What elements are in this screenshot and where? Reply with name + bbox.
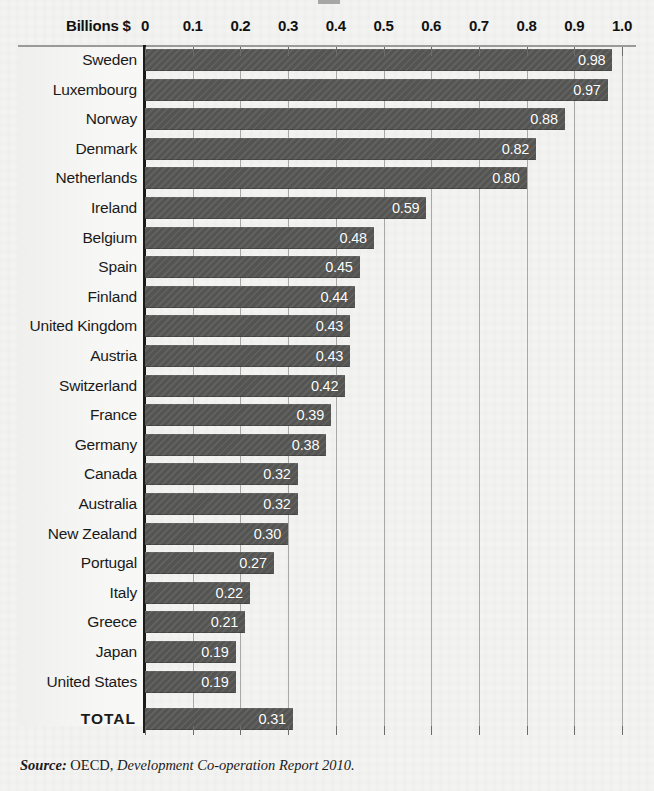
chart-row: Finland0.44 [145, 286, 622, 308]
axis-tick-bottom-0.5 [384, 726, 385, 735]
category-label: Australia [78, 493, 145, 515]
category-label: Canada [84, 463, 145, 485]
source-organization: OECD, [67, 757, 117, 773]
axis-tick-bottom-0.9 [574, 726, 575, 735]
category-label: Japan [96, 641, 145, 663]
axis-tick-bottom-0.2 [240, 726, 241, 735]
bar-value-label: 0.30 [254, 523, 281, 545]
chart-row: Ireland0.59 [145, 197, 622, 219]
bar: 0.88 [145, 108, 565, 130]
x-tick-label-0.1: 0.1 [183, 17, 203, 34]
axis-tick-bottom-0.3 [288, 726, 289, 735]
chart-row: Switzerland0.42 [145, 375, 622, 397]
bar-value-label: 0.98 [578, 49, 605, 71]
category-label: Switzerland [59, 375, 145, 397]
chart-row: Canada0.32 [145, 463, 622, 485]
category-label: France [90, 404, 145, 426]
bar-value-label: 0.44 [320, 286, 347, 308]
bar: 0.19 [145, 671, 236, 693]
category-label: Greece [87, 611, 145, 633]
chart-row: Denmark0.82 [145, 138, 622, 160]
bar-value-label: 0.42 [311, 375, 338, 397]
bar: 0.19 [145, 641, 236, 663]
bar-value-label: 0.32 [263, 463, 290, 485]
category-label: Denmark [76, 138, 145, 160]
bar: 0.32 [145, 463, 298, 485]
axis-tick-bottom-0.1 [193, 726, 194, 735]
bar: 0.31 [145, 708, 293, 730]
x-tick-label-0.6: 0.6 [421, 17, 441, 34]
chart-row: Australia0.32 [145, 493, 622, 515]
bar: 0.44 [145, 286, 355, 308]
source-prefix: Source: [20, 757, 67, 773]
category-label: Austria [90, 345, 145, 367]
bar-value-label: 0.97 [573, 79, 600, 101]
axis-tick-top-0.8 [527, 47, 528, 56]
bar: 0.27 [145, 552, 274, 574]
chart-row: Belgium0.48 [145, 227, 622, 249]
bar-value-label: 0.45 [325, 256, 352, 278]
bar-value-label: 0.21 [211, 611, 238, 633]
chart-row: Netherlands0.80 [145, 167, 622, 189]
bar-value-label: 0.32 [263, 493, 290, 515]
bar: 0.59 [145, 197, 426, 219]
bar-value-label: 0.39 [297, 404, 324, 426]
bar: 0.32 [145, 493, 298, 515]
bar: 0.43 [145, 345, 350, 367]
axis-tick-bottom-0.6 [431, 726, 432, 735]
bar-chart: Billions $ 00.10.20.30.40.50.60.70.80.91… [0, 0, 654, 791]
x-tick-label-0: 0 [141, 17, 149, 34]
bar-value-label: 0.80 [492, 167, 519, 189]
category-label: Portugal [81, 552, 145, 574]
chart-row: Spain0.45 [145, 256, 622, 278]
bar: 0.43 [145, 315, 350, 337]
x-tick-label-1.0: 1.0 [612, 17, 632, 34]
category-label: Luxembourg [53, 79, 145, 101]
bar-value-label: 0.19 [201, 641, 228, 663]
bar: 0.42 [145, 375, 345, 397]
axis-tick-bottom-0.4 [336, 726, 337, 735]
category-label: Germany [75, 434, 145, 456]
axis-tick-top-0.3 [288, 47, 289, 56]
chart-row: Luxembourg0.97 [145, 79, 622, 101]
axis-tick-top-0.9 [574, 47, 575, 56]
category-label: Ireland [91, 197, 145, 219]
category-label: Italy [110, 582, 145, 604]
x-axis-header: Billions $ 00.10.20.30.40.50.60.70.80.91… [0, 17, 654, 41]
chart-row: New Zealand0.30 [145, 523, 622, 545]
axis-tick-bottom-1 [622, 726, 623, 735]
category-label: United Kingdom [30, 315, 146, 337]
chart-row: United Kingdom0.43 [145, 315, 622, 337]
bar-value-label: 0.31 [258, 708, 285, 730]
category-label: New Zealand [48, 523, 145, 545]
axis-tick-top-0.7 [479, 47, 480, 56]
chart-row: Norway0.88 [145, 108, 622, 130]
bar-value-label: 0.82 [502, 138, 529, 160]
gridline-1 [622, 47, 623, 726]
axis-tick-top-0.6 [431, 47, 432, 56]
bar-value-label: 0.27 [239, 552, 266, 574]
x-tick-label-0.3: 0.3 [278, 17, 298, 34]
chart-row: United States0.19 [145, 671, 622, 693]
category-label: Spain [98, 256, 145, 278]
axis-tick-top-0.4 [336, 47, 337, 56]
bar: 0.22 [145, 582, 250, 604]
bar: 0.82 [145, 138, 536, 160]
source-note: Source: OECD, Development Co-operation R… [20, 757, 355, 774]
bar-value-label: 0.48 [340, 227, 367, 249]
chart-row: Greece0.21 [145, 611, 622, 633]
bar: 0.21 [145, 611, 245, 633]
category-label: Finland [88, 286, 145, 308]
category-label: Sweden [82, 49, 145, 71]
chart-row: Italy0.22 [145, 582, 622, 604]
bar-value-label: 0.59 [392, 197, 419, 219]
x-tick-label-0.7: 0.7 [469, 17, 489, 34]
axis-tick-bottom-0 [145, 726, 146, 735]
axis-tick-top-0.2 [240, 47, 241, 56]
chart-row: Germany0.38 [145, 434, 622, 456]
plot-area: Sweden0.98Luxembourg0.97Norway0.88Denmar… [145, 47, 622, 726]
bar: 0.30 [145, 523, 288, 545]
chart-row: Portugal0.27 [145, 552, 622, 574]
axis-tick-top-1 [622, 47, 623, 56]
bar: 0.39 [145, 404, 331, 426]
